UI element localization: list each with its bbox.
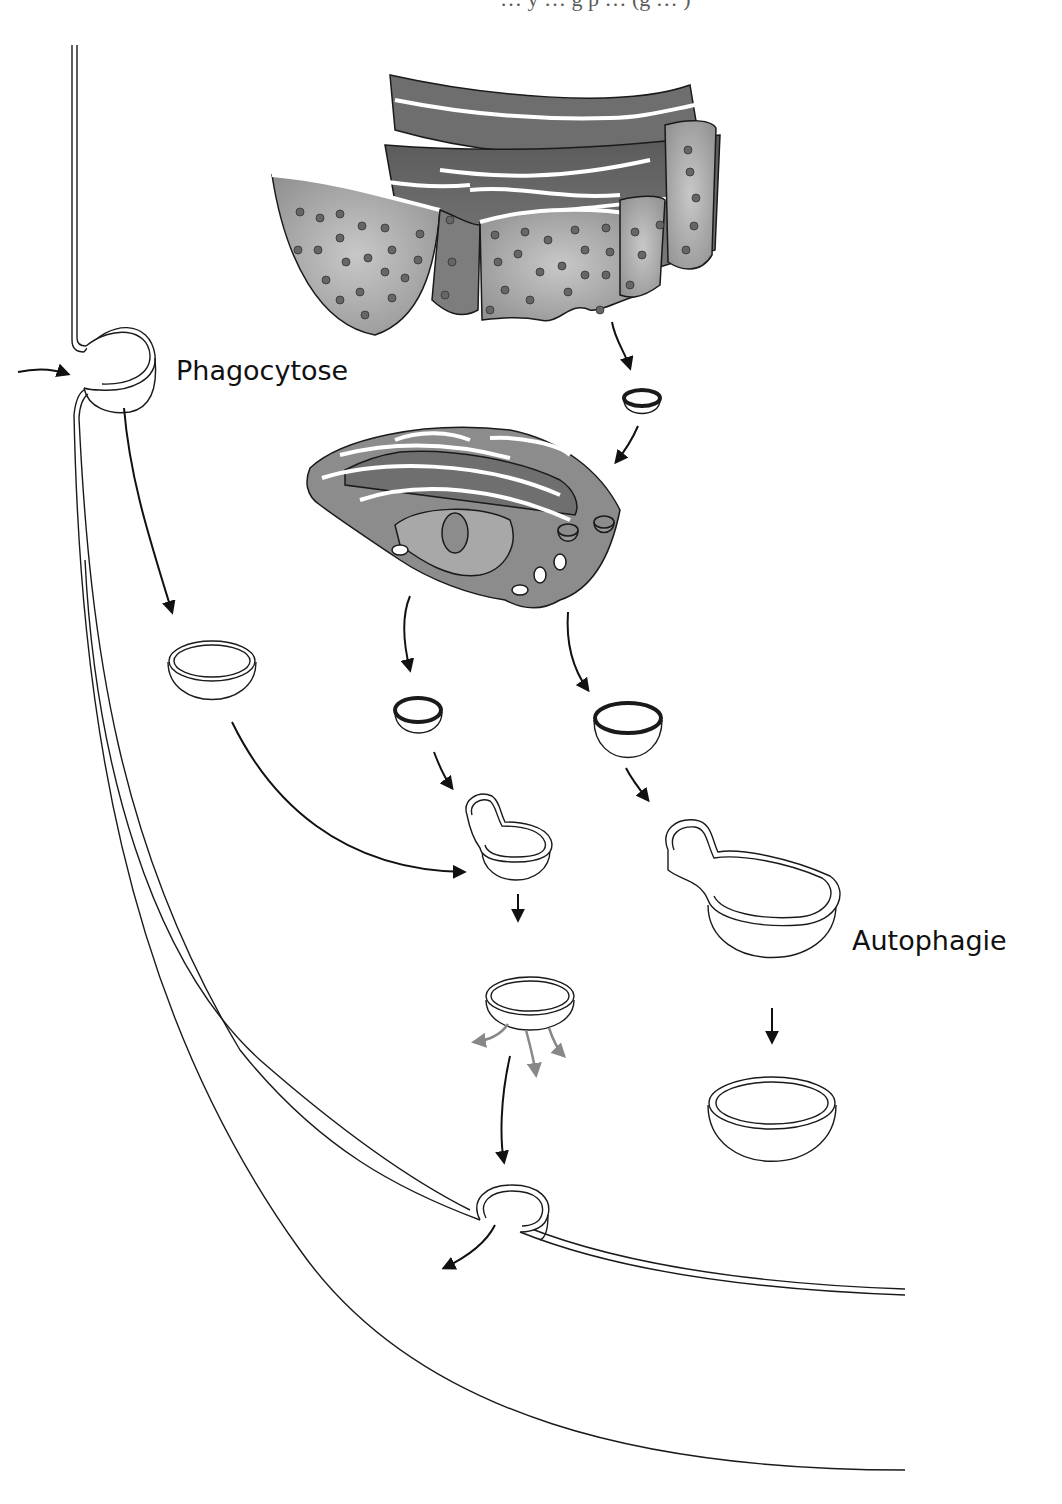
- rough-er: [272, 75, 720, 335]
- arrow-exocytosis-release: [444, 1225, 495, 1268]
- phagolysosome: [466, 794, 552, 880]
- golgi-apparatus: [307, 427, 620, 607]
- digestion-vesicle: [486, 977, 574, 1030]
- label-phagocytosis: Phagocytose: [176, 355, 348, 386]
- arrow-golgi-to-small-lysosome: [404, 596, 410, 670]
- arrow-to-exocytosis: [502, 1056, 510, 1162]
- autophagolysosome: [666, 820, 840, 958]
- residual-body: [708, 1077, 836, 1161]
- phagocytosis-entry-arrow: [18, 369, 68, 374]
- diagram-canvas: [0, 0, 1062, 1504]
- transport-vesicle: [624, 390, 660, 414]
- primary-lysosome-large: [594, 703, 662, 758]
- arrow-to-phagosome: [124, 408, 172, 612]
- primary-lysosome-small: [395, 698, 442, 733]
- arrow-vesicle-to-golgi: [616, 426, 638, 462]
- arrow-golgi-to-large-lysosome: [568, 612, 588, 690]
- phagocytosis-cup: [84, 328, 156, 413]
- label-autophagy: Autophagie: [852, 925, 1007, 956]
- arrow-phagosome-to-phagolysosome: [232, 722, 464, 872]
- arrow-small-lysosome-to-phagolysosome: [434, 752, 452, 788]
- phagosome: [168, 641, 256, 700]
- cell-diagram: … y … g p … (g … ): [0, 0, 1062, 1504]
- nutrient-release-arrows: [474, 1024, 564, 1075]
- arrow-er-to-vesicle: [612, 322, 630, 368]
- arrow-large-lysosome-to-autophagosome: [626, 768, 648, 800]
